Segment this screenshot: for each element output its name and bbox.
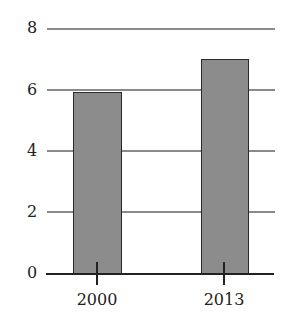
x-tick (96, 262, 98, 285)
gridline-8 (47, 28, 275, 30)
y-tick-label: 4 (24, 143, 40, 159)
x-tick (223, 262, 225, 285)
y-tick-label: 0 (24, 265, 40, 281)
y-tick-label: 6 (24, 82, 40, 98)
y-tick-label: 2 (24, 204, 40, 220)
bar-2013 (201, 59, 249, 274)
bar-2000 (73, 92, 122, 274)
x-axis (46, 273, 274, 275)
x-tick-label: 2000 (67, 290, 127, 309)
x-tick-label: 2013 (194, 290, 254, 309)
y-tick-label: 8 (24, 20, 40, 36)
